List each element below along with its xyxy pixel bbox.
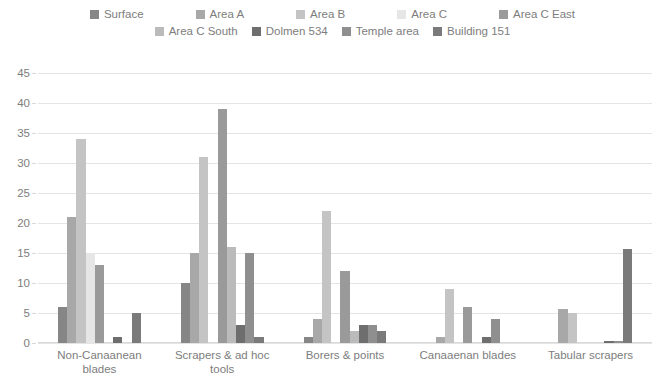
bar[interactable]: [245, 253, 254, 343]
bar-group: [161, 73, 284, 343]
legend-swatch-icon: [196, 10, 205, 19]
x-axis-category-label: Tabular scrapers: [529, 348, 652, 392]
bar[interactable]: [482, 337, 491, 343]
y-axis-tick-mark: [32, 133, 36, 134]
y-axis-tick-mark: [32, 283, 36, 284]
bar[interactable]: [67, 217, 76, 343]
bar-group: [38, 73, 161, 343]
bar-group: [284, 73, 407, 343]
legend-label: Dolmen 534: [266, 25, 328, 38]
y-axis-tick-mark: [32, 343, 36, 344]
legend-label: Area B: [310, 8, 345, 21]
bar[interactable]: [190, 253, 199, 343]
bar[interactable]: [359, 325, 368, 343]
y-axis-tick-label: 25: [17, 187, 30, 199]
bar[interactable]: [340, 271, 349, 343]
y-axis-tick-mark: [32, 163, 36, 164]
bar[interactable]: [322, 211, 331, 343]
y-axis-tick-label: 5: [24, 307, 30, 319]
legend-label: Area A: [210, 8, 245, 21]
legend-item-area-a[interactable]: Area A: [196, 8, 245, 21]
bar[interactable]: [623, 249, 632, 343]
legend-item-area-c-south[interactable]: Area C South: [155, 25, 238, 38]
x-axis-category-label: Canaaenan blades: [406, 348, 529, 392]
legend-row-1: SurfaceArea AArea BArea CArea C East: [90, 8, 575, 21]
bar[interactable]: [558, 309, 567, 343]
y-axis-tick-mark: [32, 73, 36, 74]
bar[interactable]: [254, 337, 263, 343]
y-axis-tick-label: 15: [17, 247, 30, 259]
chart-legend: SurfaceArea AArea BArea CArea C East Are…: [0, 8, 665, 38]
y-axis-tick-label: 40: [17, 97, 30, 109]
y-axis-tick-label: 35: [17, 127, 30, 139]
bar[interactable]: [132, 313, 141, 343]
bar[interactable]: [313, 319, 322, 343]
bar[interactable]: [614, 341, 623, 343]
bar-chart: SurfaceArea AArea BArea CArea C East Are…: [0, 0, 665, 392]
legend-swatch-icon: [155, 27, 164, 36]
legend-item-area-b[interactable]: Area B: [296, 8, 345, 21]
bar[interactable]: [463, 307, 472, 343]
bar[interactable]: [199, 157, 208, 343]
y-axis-tick-label: 0: [24, 337, 30, 349]
bar[interactable]: [377, 331, 386, 343]
legend-label: Area C: [411, 8, 447, 21]
legend-label: Surface: [104, 8, 144, 21]
bar[interactable]: [76, 139, 85, 343]
bar[interactable]: [350, 331, 359, 343]
bar[interactable]: [368, 325, 377, 343]
bar[interactable]: [568, 313, 577, 343]
legend-swatch-icon: [397, 10, 406, 19]
gridline: [38, 343, 652, 344]
bar-groups: [38, 73, 652, 343]
bar[interactable]: [227, 247, 236, 343]
bar[interactable]: [304, 337, 313, 343]
legend-swatch-icon: [433, 27, 442, 36]
legend-swatch-icon: [252, 27, 261, 36]
y-axis-tick-mark: [32, 253, 36, 254]
bar[interactable]: [445, 289, 454, 343]
legend-item-building-151[interactable]: Building 151: [433, 25, 510, 38]
bar[interactable]: [95, 265, 104, 343]
legend-item-area-c-east[interactable]: Area C East: [499, 8, 575, 21]
legend-label: Building 151: [447, 25, 510, 38]
legend-item-area-c[interactable]: Area C: [397, 8, 447, 21]
legend-label: Temple area: [356, 25, 419, 38]
legend-label: Area C East: [513, 8, 575, 21]
y-axis-tick-label: 30: [17, 157, 30, 169]
legend-label: Area C South: [169, 25, 238, 38]
bar[interactable]: [236, 325, 245, 343]
y-axis-tick-label: 10: [17, 277, 30, 289]
legend-swatch-icon: [296, 10, 305, 19]
bar[interactable]: [436, 337, 445, 343]
legend-item-dolmen-534[interactable]: Dolmen 534: [252, 25, 328, 38]
legend-swatch-icon: [342, 27, 351, 36]
bar[interactable]: [604, 341, 613, 343]
y-axis-tick-mark: [32, 103, 36, 104]
y-axis-tick-mark: [32, 193, 36, 194]
x-axis-category-label: Borers & points: [284, 348, 407, 392]
bar[interactable]: [58, 307, 67, 343]
bar-group: [406, 73, 529, 343]
y-axis-tick-mark: [32, 223, 36, 224]
legend-swatch-icon: [499, 10, 508, 19]
bar[interactable]: [218, 109, 227, 343]
plot-area: [38, 73, 652, 343]
legend-item-temple-area[interactable]: Temple area: [342, 25, 419, 38]
bar[interactable]: [491, 319, 500, 343]
y-axis: 454035302520151050: [0, 73, 34, 343]
legend-item-surface[interactable]: Surface: [90, 8, 144, 21]
x-axis-category-label: Scrapers & ad hoc tools: [161, 348, 284, 392]
y-axis-tick-mark: [32, 313, 36, 314]
legend-swatch-icon: [90, 10, 99, 19]
x-axis-category-label: Non-Canaanean blades: [38, 348, 161, 392]
bar[interactable]: [86, 253, 95, 343]
legend-row-2: Area C SouthDolmen 534Temple areaBuildin…: [155, 25, 511, 38]
y-axis-tick-label: 45: [17, 67, 30, 79]
x-axis-labels: Non-Canaanean bladesScrapers & ad hoc to…: [38, 348, 652, 392]
y-axis-tick-label: 20: [17, 217, 30, 229]
bar[interactable]: [181, 283, 190, 343]
bar-group: [529, 73, 652, 343]
bar[interactable]: [113, 337, 122, 343]
